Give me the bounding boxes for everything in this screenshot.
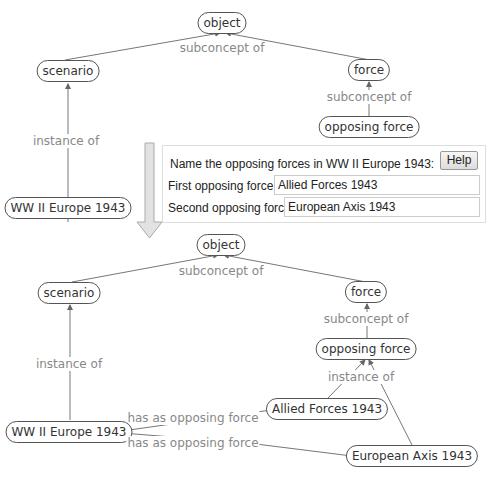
- label-has-opposing-1: has as opposing force: [126, 411, 259, 425]
- node-ww2-bottom[interactable]: WW II Europe 1943: [6, 421, 133, 443]
- node-opposing-force-top[interactable]: opposing force: [319, 116, 420, 138]
- node-force-top[interactable]: force: [348, 59, 390, 81]
- label-instance-of-right: instance of: [327, 370, 395, 384]
- second-force-label: Second opposing force: [168, 201, 291, 215]
- label-subconcept-bottom: subconcept of: [178, 264, 265, 278]
- node-object-top[interactable]: object: [198, 12, 247, 34]
- opposing-forces-dialog: Name the opposing forces in WW II Europe…: [162, 145, 486, 223]
- label-instance-of-left: instance of: [35, 357, 103, 371]
- second-force-row: Second opposing force: [168, 197, 480, 219]
- first-force-row: First opposing force:: [168, 175, 480, 197]
- node-scenario-bottom[interactable]: scenario: [38, 282, 101, 304]
- label-subconcept-force-top: subconcept of: [326, 90, 413, 104]
- node-force-bottom[interactable]: force: [345, 281, 387, 303]
- node-european-axis[interactable]: European Axis 1943: [346, 445, 478, 467]
- second-force-input[interactable]: [284, 197, 480, 217]
- node-scenario-top[interactable]: scenario: [37, 60, 100, 82]
- label-subconcept-force-bottom: subconcept of: [323, 312, 410, 326]
- first-force-label: First opposing force:: [168, 179, 277, 193]
- node-opposing-force-bottom[interactable]: opposing force: [316, 338, 417, 360]
- node-allied-forces[interactable]: Allied Forces 1943: [266, 398, 388, 420]
- node-object-bottom[interactable]: object: [197, 234, 246, 256]
- label-has-opposing-2: has as opposing force: [126, 436, 259, 450]
- first-force-input[interactable]: [274, 175, 480, 195]
- help-button[interactable]: Help: [440, 151, 478, 170]
- node-ww2-top[interactable]: WW II Europe 1943: [5, 197, 132, 219]
- transition-arrow: [137, 143, 162, 238]
- label-subconcept-top: subconcept of: [179, 41, 266, 55]
- question-text: Name the opposing forces in WW II Europe…: [170, 157, 434, 171]
- label-instance-of-top: instance of: [32, 134, 100, 148]
